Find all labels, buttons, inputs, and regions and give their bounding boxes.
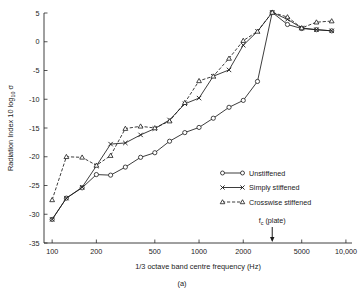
marker-triangle	[329, 19, 334, 23]
series-line	[52, 12, 332, 199]
marker-circle	[138, 155, 142, 159]
marker-circle	[123, 165, 127, 169]
marker-triangle	[50, 197, 55, 201]
y-axis-title-group: Radiation Index 10 log10 σ	[6, 84, 16, 171]
marker-triangle	[240, 200, 245, 204]
legend-label: Simply stiffened	[249, 183, 300, 192]
marker-triangle	[108, 153, 113, 157]
marker-circle	[153, 151, 157, 155]
x-tick-label: 1000	[191, 247, 207, 256]
x-tick-label: 10,000	[335, 247, 357, 256]
radiation-index-chart: 50-5-10-15-20-25-30-35100200500100020005…	[0, 0, 363, 300]
marker-x	[241, 43, 245, 47]
x-tick-label: 100	[46, 247, 58, 256]
marker-circle	[221, 171, 225, 175]
y-tick-label: -10	[29, 95, 39, 104]
annotation-arrow-head	[270, 237, 274, 242]
marker-circle	[285, 22, 289, 26]
marker-triangle	[138, 124, 143, 128]
annotation-label: fc (plate)	[259, 216, 286, 226]
marker-triangle	[197, 78, 202, 82]
series-crosswise-stiffened	[50, 10, 334, 202]
marker-circle	[183, 131, 187, 135]
marker-triangle	[285, 15, 290, 19]
y-tick-label: -25	[29, 181, 39, 190]
axes: 50-5-10-15-20-25-30-35100200500100020005…	[29, 9, 357, 256]
marker-circle	[241, 171, 245, 175]
legend-label: Crosswise stiffened	[249, 198, 311, 207]
y-tick-label: -15	[29, 124, 39, 133]
marker-circle	[255, 79, 259, 83]
marker-circle	[241, 98, 245, 102]
chart-legend: UnstiffenedSimply stiffenedCrosswise sti…	[220, 169, 311, 207]
y-tick-label: 0	[36, 37, 40, 46]
x-tick-label: 200	[90, 247, 102, 256]
y-tick-label: -30	[29, 210, 39, 219]
marker-circle	[167, 139, 171, 143]
marker-triangle	[220, 200, 225, 204]
legend-label: Unstiffened	[249, 169, 285, 178]
x-tick-label: 5000	[294, 247, 310, 256]
y-tick-label: 5	[36, 9, 40, 18]
marker-circle	[211, 116, 215, 120]
marker-circle	[227, 105, 231, 109]
x-axis-title: 1/3 octave band centre frequency (Hz)	[135, 262, 261, 271]
marker-x	[197, 96, 201, 100]
chart-annotations: fc (plate)	[259, 216, 286, 242]
marker-circle	[109, 173, 113, 177]
marker-circle	[94, 172, 98, 176]
marker-x	[227, 68, 231, 72]
y-tick-label: -35	[29, 239, 39, 248]
marker-circle	[197, 125, 201, 129]
legend-item-unstiffened[interactable]: Unstiffened	[221, 169, 286, 178]
critical-frequency-marker: fc (plate)	[259, 216, 286, 242]
legend-item-crosswise-stiffened[interactable]: Crosswise stiffened	[220, 198, 311, 207]
legend-item-simply-stiffened[interactable]: Simply stiffened	[220, 183, 299, 192]
y-tick-label: -20	[29, 152, 39, 161]
x-tick-label: 2000	[235, 247, 251, 256]
figure-container: 50-5-10-15-20-25-30-35100200500100020005…	[0, 0, 363, 300]
marker-x	[138, 133, 142, 137]
y-axis-title: Radiation Index 10 log10 σ	[6, 84, 16, 171]
marker-triangle	[241, 38, 246, 42]
y-tick-label: -5	[33, 66, 39, 75]
x-tick-label: 500	[149, 247, 161, 256]
marker-triangle	[80, 155, 85, 159]
figure-caption: (a)	[177, 279, 186, 288]
